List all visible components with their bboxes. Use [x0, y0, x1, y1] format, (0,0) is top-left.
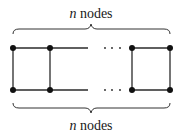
top-brace — [13, 24, 170, 34]
ellipsis-top — [104, 47, 121, 49]
node-top-n — [167, 45, 173, 51]
ladder-graph-diagram: n nodes n nodes — [0, 0, 182, 138]
bottom-brace — [13, 103, 170, 113]
bottom-label: n nodes — [69, 118, 112, 133]
node-bottom-n — [167, 87, 173, 93]
node-bottom-n1 — [129, 87, 135, 93]
node-top-1 — [10, 45, 16, 51]
top-label: n nodes — [69, 6, 112, 21]
node-top-2 — [47, 45, 53, 51]
node-bottom-1 — [10, 87, 16, 93]
node-bottom-2 — [47, 87, 53, 93]
ellipsis-bottom — [104, 89, 121, 91]
node-top-n1 — [129, 45, 135, 51]
